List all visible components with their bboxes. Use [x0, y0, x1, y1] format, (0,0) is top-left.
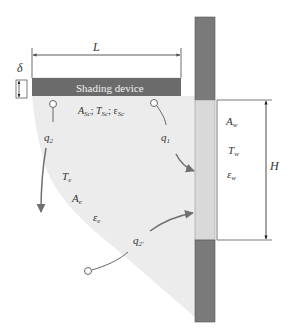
thickness-bracket — [16, 80, 27, 98]
window-emissivity: εw — [227, 168, 236, 182]
shading-device-label: Shading device — [76, 82, 144, 94]
window-area: Aw — [225, 115, 238, 129]
diagram-canvas: L δ Shading device ASc; TSc; εSc H Aw Tw… — [0, 0, 293, 336]
length-label: L — [92, 40, 100, 54]
wall-upper — [195, 17, 215, 100]
q1-source-node — [151, 100, 158, 107]
shading-outline — [32, 55, 181, 78]
q2-source-node — [50, 101, 57, 108]
environment-region — [32, 96, 196, 318]
window — [195, 100, 215, 240]
height-label: H — [269, 159, 280, 173]
window-temperature: Tw — [228, 144, 239, 158]
q2prime-stem — [92, 252, 128, 270]
thickness-label: δ — [17, 61, 23, 75]
q2prime-source-node — [85, 268, 92, 275]
wall-lower — [195, 240, 215, 322]
